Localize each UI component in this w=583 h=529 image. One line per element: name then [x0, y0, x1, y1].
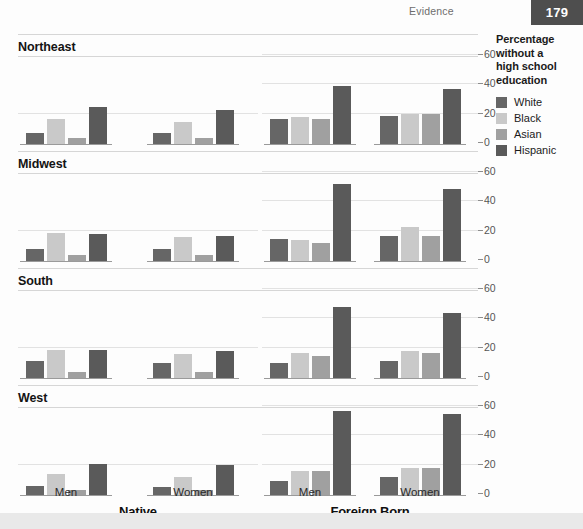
y-axis-tick-mark — [478, 142, 483, 143]
bar-black[interactable] — [47, 233, 65, 261]
legend-item-hispanic[interactable]: Hispanic — [496, 143, 583, 157]
y-axis-tick-mark — [478, 317, 483, 318]
bar-hispanic[interactable] — [443, 414, 461, 495]
plot-midwest-native — [18, 171, 258, 262]
plot-south-native — [18, 288, 258, 379]
bar-white[interactable] — [270, 119, 288, 144]
chart-panels: Northeast6040200Midwest6040200South60402… — [0, 30, 495, 500]
bar-black[interactable] — [401, 227, 419, 261]
y-axis-tick-label: 0 — [484, 371, 502, 381]
bar-group-men — [26, 407, 107, 495]
y-axis-tick-mark — [478, 288, 483, 289]
legend-title: Percentagewithout ahigh schooleducation — [496, 33, 582, 87]
header-title: Evidence — [409, 5, 454, 17]
legend-item-black[interactable]: Black — [496, 111, 583, 125]
bar-hispanic[interactable] — [333, 184, 351, 260]
bar-hispanic[interactable] — [89, 107, 107, 144]
bar-hispanic[interactable] — [216, 351, 234, 377]
page-header: Evidence 179 — [0, 0, 583, 26]
bar-white[interactable] — [26, 133, 44, 143]
chart-legend: Percentagewithout ahigh schooleducation … — [496, 33, 583, 159]
bar-asian[interactable] — [422, 114, 440, 143]
bar-group-men — [270, 407, 351, 495]
bar-hispanic[interactable] — [216, 110, 234, 144]
bar-black[interactable] — [174, 122, 192, 144]
bar-white[interactable] — [153, 249, 171, 261]
axis-baseline — [374, 261, 466, 263]
separator-line — [18, 34, 478, 35]
y-axis-tick-label: 60 — [484, 166, 502, 176]
region-row-midwest: Midwest6040200 — [0, 147, 495, 262]
bar-hispanic[interactable] — [443, 89, 461, 143]
bar-asian[interactable] — [312, 243, 330, 261]
axis-baseline — [20, 144, 112, 146]
group-label-native-women: Women — [147, 486, 239, 498]
axis-baseline — [147, 144, 239, 146]
plot-northeast-native — [18, 54, 258, 145]
bar-black[interactable] — [47, 119, 65, 144]
bar-black[interactable] — [47, 350, 65, 378]
bar-white[interactable] — [380, 116, 398, 144]
chart-page: Evidence 179 Percentagewithout ahigh sch… — [0, 0, 583, 529]
y-axis-tick-label: 20 — [484, 108, 502, 118]
y-axis-tick-mark — [478, 434, 483, 435]
y-axis-tick-label: 20 — [484, 225, 502, 235]
axis-baseline — [374, 378, 466, 380]
bar-group-women — [380, 407, 461, 495]
bar-hispanic[interactable] — [443, 189, 461, 261]
region-title: Northeast — [18, 40, 75, 54]
legend-title-line: education — [496, 74, 582, 88]
bar-black[interactable] — [174, 354, 192, 377]
legend-item-asian[interactable]: Asian — [496, 127, 583, 141]
axis-baseline — [264, 378, 356, 380]
group-label-foreign-men: Men — [264, 486, 356, 498]
bar-white[interactable] — [153, 133, 171, 143]
bar-black[interactable] — [291, 353, 309, 378]
bar-hispanic[interactable] — [89, 234, 107, 260]
y-axis-tick-label: 0 — [484, 488, 502, 498]
bar-black[interactable] — [401, 114, 419, 143]
bar-hispanic[interactable] — [333, 86, 351, 143]
bar-white[interactable] — [270, 239, 288, 261]
bar-black[interactable] — [401, 351, 419, 377]
bar-white[interactable] — [26, 249, 44, 261]
bar-hispanic[interactable] — [333, 411, 351, 495]
bar-hispanic[interactable] — [216, 236, 234, 261]
y-axis-tick-mark — [478, 376, 483, 377]
y-axis-tick-label: 60 — [484, 283, 502, 293]
separator-line — [18, 268, 478, 269]
bar-asian[interactable] — [312, 119, 330, 144]
axis-baseline — [20, 378, 112, 380]
y-axis-tick-label: 40 — [484, 312, 502, 322]
bar-asian[interactable] — [422, 353, 440, 378]
bar-group-women — [153, 173, 234, 261]
bar-hispanic[interactable] — [443, 313, 461, 378]
footer-band — [0, 513, 583, 529]
region-title: Midwest — [18, 157, 67, 171]
bar-group-men — [26, 56, 107, 144]
bar-white[interactable] — [270, 363, 288, 378]
region-row-south: South6040200 — [0, 264, 495, 379]
bar-white[interactable] — [380, 361, 398, 377]
y-axis-tick-mark — [478, 83, 483, 84]
y-axis-tick-mark — [478, 259, 483, 260]
bar-white[interactable] — [380, 236, 398, 261]
bar-group-men — [270, 290, 351, 378]
bar-hispanic[interactable] — [89, 350, 107, 378]
bar-white[interactable] — [26, 361, 44, 377]
bar-black[interactable] — [291, 117, 309, 143]
y-axis-tick-label: 20 — [484, 459, 502, 469]
legend-item-label: Black — [514, 113, 541, 124]
region-row-west: West6040200 — [0, 381, 495, 496]
legend-items: WhiteBlackAsianHispanic — [496, 95, 583, 157]
bar-black[interactable] — [291, 240, 309, 261]
bar-white[interactable] — [153, 363, 171, 378]
bar-black[interactable] — [174, 237, 192, 260]
group-label-native-men: Men — [20, 486, 112, 498]
bar-asian[interactable] — [422, 236, 440, 261]
y-axis-tick-mark — [478, 200, 483, 201]
bar-asian[interactable] — [312, 356, 330, 378]
bar-group-women — [380, 290, 461, 378]
legend-item-white[interactable]: White — [496, 95, 583, 109]
bar-hispanic[interactable] — [333, 307, 351, 377]
